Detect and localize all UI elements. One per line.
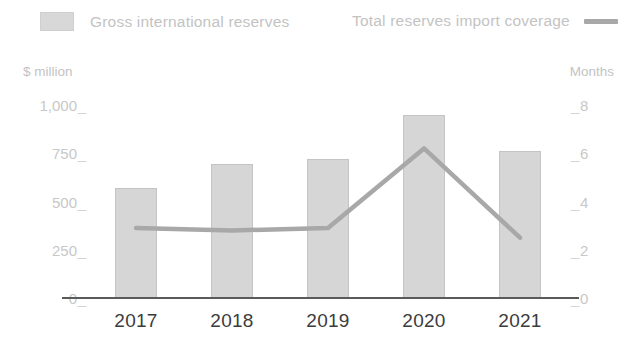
category-label-2021: 2021 [498,310,541,332]
legend-item-gross-international-reserves[interactable]: Gross international reserves [40,12,289,31]
line-series-path [136,148,520,237]
square-swatch-icon [40,12,74,31]
right-tick-8: _8 [571,98,588,113]
line-swatch-icon [584,19,618,24]
category-label-2019: 2019 [306,310,349,332]
right-tick-2: _2 [571,242,588,257]
left-tick-500: 500_ [52,194,86,209]
left-axis-title: $ million [23,64,73,79]
category-label-2020: 2020 [402,310,445,332]
legend-label-line: Total reserves import coverage [352,12,570,30]
left-tick-1000: 1,000_ [39,98,86,113]
category-label-2017: 2017 [114,310,157,332]
right-tick-6: _6 [571,146,588,161]
right-axis-ticks: _0_2_4_6_8 [571,105,629,298]
plot-area [88,105,568,298]
right-axis-title: Months [570,64,614,79]
chart-figure: Gross international reserves Total reser… [0,0,631,351]
left-tick-750: 750_ [52,146,86,161]
left-tick-250: 250_ [52,242,86,257]
line-series-svg [88,105,568,298]
category-label-2018: 2018 [210,310,253,332]
x-axis-line [62,297,579,299]
right-tick-4: _4 [571,194,588,209]
left-axis-ticks: 0_250_500_750_1,000_ [0,105,86,298]
legend-label-bars: Gross international reserves [90,13,289,31]
legend-item-total-reserves-import-coverage[interactable]: Total reserves import coverage [352,12,618,30]
